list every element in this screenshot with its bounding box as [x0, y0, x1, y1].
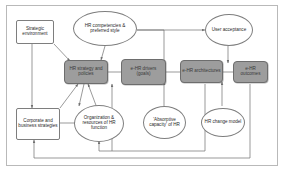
node-absorptive-capacity[interactable]: 'Absorptive capacity' of HR [143, 106, 186, 139]
node-label: Strategic environment [17, 27, 53, 37]
node-label: Corporate and business strategies [17, 119, 59, 129]
node-corporate-business-strategies[interactable]: Corporate and business strategies [16, 108, 60, 140]
connector-group [32, 30, 250, 158]
node-label: 'Absorptive capacity' of HR [144, 118, 185, 128]
node-hr-strategy-policies[interactable]: HR strategy and policies [64, 60, 108, 84]
node-label: e-HR architectures [181, 69, 222, 74]
node-ehr-drivers[interactable]: e-HR drivers (goals) [121, 59, 166, 85]
node-label: e-HR drivers (goals) [122, 67, 165, 77]
node-user-acceptance[interactable]: User acceptance [205, 14, 253, 46]
node-organization-resources[interactable]: Organization & resources of HR function [74, 105, 124, 142]
node-ehr-architectures[interactable]: e-HR architectures [180, 60, 223, 83]
node-label: HR change model [202, 120, 244, 125]
node-label: HR competencies & preferred style [74, 24, 136, 34]
node-label: HR strategy and policies [65, 67, 107, 77]
diagram-canvas: Strategic environment HR competencies & … [0, 0, 285, 172]
node-hr-change-model[interactable]: HR change model [201, 108, 245, 137]
node-ehr-outcomes[interactable]: e-HR outcomes [233, 61, 268, 83]
node-hr-competencies[interactable]: HR competencies & preferred style [73, 11, 137, 46]
node-label: Organization & resources of HR function [75, 116, 123, 131]
node-label: User acceptance [206, 28, 252, 33]
node-label: e-HR outcomes [234, 67, 267, 77]
node-strategic-environment[interactable]: Strategic environment [16, 20, 54, 44]
